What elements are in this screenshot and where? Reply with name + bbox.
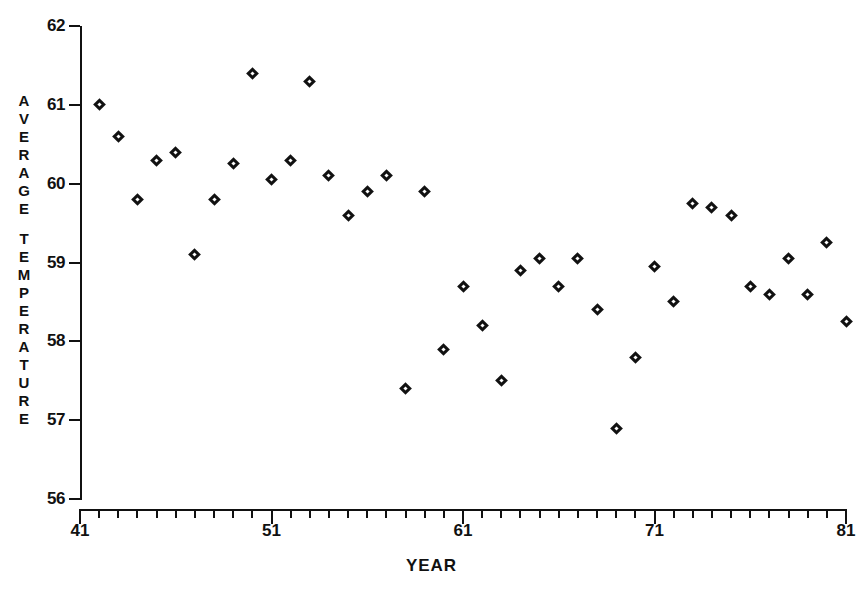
data-point bbox=[610, 422, 623, 435]
data-point bbox=[399, 382, 412, 395]
data-point bbox=[725, 209, 738, 222]
data-point bbox=[361, 185, 374, 198]
marker-center bbox=[193, 252, 197, 256]
marker-center bbox=[365, 189, 369, 193]
data-point bbox=[303, 75, 316, 88]
data-point bbox=[706, 201, 719, 214]
data-point bbox=[437, 343, 450, 356]
marker-center bbox=[384, 174, 388, 178]
data-point bbox=[112, 130, 125, 143]
marker-center bbox=[614, 426, 618, 430]
marker-center bbox=[557, 284, 561, 288]
data-point bbox=[246, 67, 259, 80]
data-point bbox=[763, 288, 776, 301]
data-point bbox=[265, 173, 278, 186]
marker-center bbox=[518, 268, 522, 272]
marker-center bbox=[576, 256, 580, 260]
marker-center bbox=[174, 150, 178, 154]
data-point bbox=[552, 280, 565, 293]
marker-center bbox=[97, 103, 101, 107]
marker-center bbox=[423, 189, 427, 193]
data-point bbox=[457, 280, 470, 293]
data-point bbox=[150, 154, 163, 167]
data-point bbox=[629, 351, 642, 364]
marker-center bbox=[461, 284, 465, 288]
data-point bbox=[284, 154, 297, 167]
data-point bbox=[189, 248, 202, 261]
marker-center bbox=[327, 174, 331, 178]
data-point bbox=[476, 319, 489, 332]
marker-center bbox=[116, 134, 120, 138]
marker-center bbox=[844, 320, 848, 324]
data-point bbox=[323, 169, 336, 182]
data-point bbox=[495, 374, 508, 387]
marker-center bbox=[442, 347, 446, 351]
marker-center bbox=[825, 241, 829, 245]
marker-center bbox=[250, 71, 254, 75]
data-point bbox=[380, 169, 393, 182]
marker-center bbox=[633, 355, 637, 359]
data-point bbox=[342, 209, 355, 222]
data-point bbox=[744, 280, 757, 293]
data-point bbox=[648, 260, 661, 273]
data-point bbox=[514, 264, 527, 277]
marker-center bbox=[710, 205, 714, 209]
data-point bbox=[533, 252, 546, 265]
marker-center bbox=[289, 158, 293, 162]
marker-center bbox=[691, 201, 695, 205]
marker-center bbox=[748, 284, 752, 288]
data-point bbox=[169, 146, 182, 159]
marker-center bbox=[480, 323, 484, 327]
marker-center bbox=[729, 213, 733, 217]
marker-center bbox=[595, 308, 599, 312]
marker-center bbox=[786, 256, 790, 260]
marker-center bbox=[346, 213, 350, 217]
data-point bbox=[591, 303, 604, 316]
marker-center bbox=[135, 197, 139, 201]
data-point bbox=[227, 158, 240, 171]
marker-center bbox=[308, 79, 312, 83]
marker-center bbox=[652, 264, 656, 268]
marker-center bbox=[806, 292, 810, 296]
data-point bbox=[840, 315, 853, 328]
marker-center bbox=[154, 158, 158, 162]
marker-center bbox=[231, 162, 235, 166]
data-point bbox=[131, 193, 144, 206]
data-point bbox=[208, 193, 221, 206]
data-point bbox=[93, 98, 106, 111]
data-point bbox=[686, 197, 699, 210]
marker-center bbox=[767, 292, 771, 296]
marker-center bbox=[403, 387, 407, 391]
data-point bbox=[418, 185, 431, 198]
plot-area bbox=[0, 0, 863, 592]
marker-center bbox=[499, 379, 503, 383]
data-point bbox=[820, 236, 833, 249]
marker-center bbox=[537, 256, 541, 260]
marker-center bbox=[212, 197, 216, 201]
data-point bbox=[572, 252, 585, 265]
marker-center bbox=[269, 178, 273, 182]
data-point bbox=[801, 288, 814, 301]
data-point bbox=[667, 296, 680, 309]
marker-center bbox=[672, 300, 676, 304]
data-point bbox=[782, 252, 795, 265]
scatter-chart-figure: 56575859606162 AVERAGETEMPERATURE 415161… bbox=[0, 0, 863, 592]
